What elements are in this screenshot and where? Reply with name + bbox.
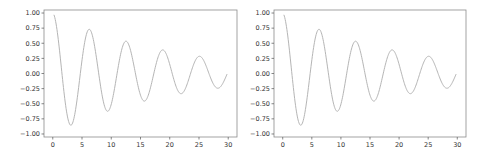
y-tick-label: 0.00 xyxy=(256,70,270,78)
y-tick-label: 0.25 xyxy=(256,55,270,63)
x-tick-label: 10 xyxy=(107,141,115,149)
y-tick-label: 0.50 xyxy=(256,40,270,48)
x-tick-label: 20 xyxy=(395,141,403,149)
x-tick-label: 25 xyxy=(424,141,432,149)
y-tick-label: 0.75 xyxy=(256,24,270,32)
x-tick-label: 30 xyxy=(453,141,461,149)
figure: 1.000.750.500.250.00−0.25−0.50−0.75−1.00… xyxy=(0,0,487,152)
y-tick-label: −0.50 xyxy=(20,100,40,108)
x-tick-label: 5 xyxy=(80,141,84,149)
x-tick-label: 20 xyxy=(166,141,174,149)
y-tick-label: −0.75 xyxy=(20,115,40,123)
y-tick-label: 0.00 xyxy=(26,70,40,78)
x-tick-label: 0 xyxy=(51,141,55,149)
x-tick-label: 0 xyxy=(281,141,285,149)
y-tick-label: −0.50 xyxy=(250,100,270,108)
axes-frame xyxy=(274,10,466,137)
y-tick-label: 1.00 xyxy=(256,9,270,17)
x-tick-label: 25 xyxy=(195,141,203,149)
chart-panel-left: 1.000.750.500.250.00−0.25−0.50−0.75−1.00… xyxy=(20,9,237,149)
y-tick-label: −0.25 xyxy=(250,85,270,93)
y-tick-label: −1.00 xyxy=(250,130,270,138)
y-tick-label: −0.75 xyxy=(250,115,270,123)
y-tick-label: −1.00 xyxy=(20,130,40,138)
x-tick-label: 10 xyxy=(337,141,345,149)
data-line xyxy=(54,15,227,125)
x-tick-label: 15 xyxy=(136,141,144,149)
y-tick-label: 0.75 xyxy=(26,24,40,32)
x-tick-label: 15 xyxy=(366,141,374,149)
x-tick-label: 30 xyxy=(224,141,232,149)
x-tick-label: 5 xyxy=(310,141,314,149)
y-tick-label: 1.00 xyxy=(26,9,40,17)
y-tick-label: −0.25 xyxy=(20,85,40,93)
y-tick-label: 0.50 xyxy=(26,40,40,48)
chart-panel-right: 1.000.750.500.250.00−0.25−0.50−0.75−1.00… xyxy=(250,9,466,149)
axes-frame xyxy=(44,10,237,137)
y-tick-label: 0.25 xyxy=(26,55,40,63)
data-line xyxy=(284,15,456,125)
